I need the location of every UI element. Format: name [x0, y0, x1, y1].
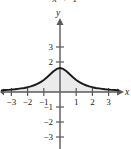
y-tick-label: −1: [43, 102, 53, 112]
x-tick-label: −3: [7, 97, 17, 107]
x-tick-label: 1: [74, 97, 79, 107]
cartesian-plot: −3−2−1123 32−1−2−3 x y: [0, 0, 131, 149]
graph-figure: x + 1 −3−2−1123 32−1−2−3 x y: [0, 0, 131, 149]
y-tick-label: 2: [49, 57, 54, 67]
y-axis-label: y: [55, 8, 61, 18]
x-tick-label: 3: [106, 97, 111, 107]
x-tick-label: 2: [90, 97, 95, 107]
x-tick-label: −2: [23, 97, 33, 107]
y-tick-label: −2: [43, 117, 53, 127]
y-axis-arrow-up: [57, 18, 64, 25]
x-axis-label: x: [124, 87, 130, 97]
y-tick-label: −3: [43, 132, 53, 142]
y-tick-label: 3: [49, 42, 54, 52]
